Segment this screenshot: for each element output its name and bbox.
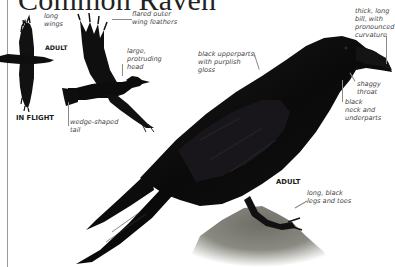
annotation-black-neck-underparts: black neck and underparts xyxy=(345,98,381,122)
annotation-shaggy-throat: shaggy throat xyxy=(357,80,381,96)
perched-adult-tag: ADULT xyxy=(276,178,300,186)
annotation-long-black-legs: long, black legs and toes xyxy=(307,189,351,205)
leader-thick-bill xyxy=(386,36,387,64)
field-guide-page: Common Raven long wings ADULT IN FLIGHT … xyxy=(0,0,395,267)
perched-raven-illustration xyxy=(0,0,395,267)
annotation-black-upperparts: black upperparts, with purplish gloss xyxy=(198,50,256,74)
annotation-thick-long-bill: thick, long bill, with pronounced curvat… xyxy=(355,7,394,39)
leader-black-neck xyxy=(342,80,343,102)
